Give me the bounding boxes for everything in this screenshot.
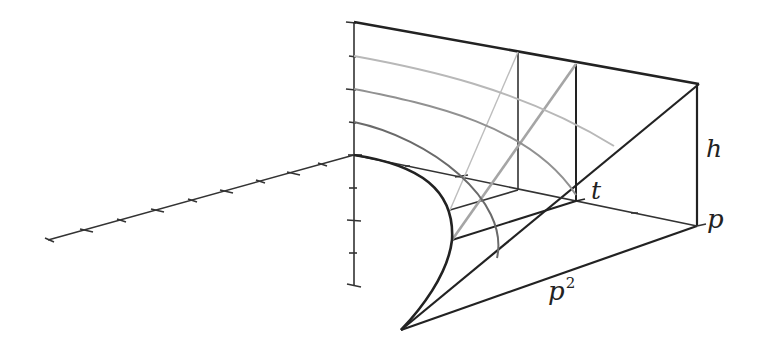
floor-connector-2 [452,201,576,240]
diagram-canvas [0,0,764,356]
label-h: h [706,136,722,161]
label-p-squared-exponent: 2 [566,274,576,292]
left-axis [45,155,354,242]
label-p-squared-base: p [548,276,565,306]
t-tick [576,199,585,201]
p-tick [697,224,706,226]
label-t: t [591,178,601,203]
gray-diagonal-mid [452,64,576,240]
label-p: p [707,206,724,232]
cusp-curve [354,155,452,330]
top-edge [354,22,699,84]
curve-dark [354,122,498,258]
vertical-axis [346,22,362,287]
label-p-squared: p2 [548,276,575,304]
